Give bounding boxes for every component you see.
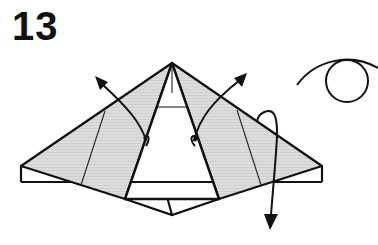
eye-icon [297, 60, 378, 102]
origami-diagram [0, 0, 378, 245]
